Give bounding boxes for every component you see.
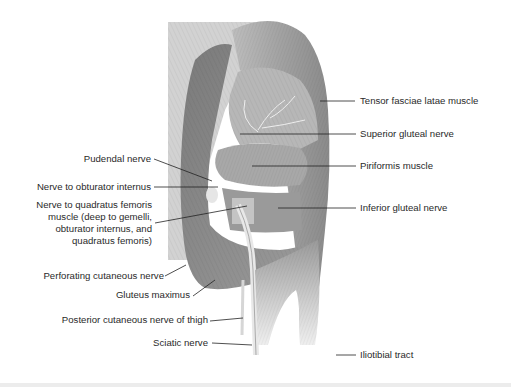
anatomy-figure: Pudendal nerve Nerve to obturator intern…: [0, 0, 511, 387]
label-perforating-cutaneous-nerve: Perforating cutaneous nerve: [43, 270, 164, 282]
label-iliotibial-tract: Iliotibial tract: [360, 349, 413, 361]
label-sciatic-nerve: Sciatic nerve: [153, 337, 208, 349]
gluteal-illustration: [0, 0, 511, 387]
label-tensor-fasciae-latae: Tensor fasciae latae muscle: [360, 95, 478, 107]
label-nerve-to-quadratus-femoris-line1: Nerve to quadratus femoris: [36, 199, 152, 211]
label-inferior-gluteal-nerve: Inferior gluteal nerve: [360, 202, 447, 214]
label-piriformis-muscle: Piriformis muscle: [360, 160, 433, 172]
label-nerve-to-quadratus-femoris-line2: muscle (deep to gemelli,: [48, 211, 152, 223]
label-nerve-to-quadratus-femoris-line4: quadratus femoris): [72, 235, 152, 247]
label-nerve-to-quadratus-femoris-line3: obturator internus, and: [55, 223, 152, 235]
bottom-border: [0, 383, 511, 387]
label-pudendal-nerve: Pudendal nerve: [84, 153, 151, 165]
label-gluteus-maximus: Gluteus maximus: [116, 289, 190, 301]
label-nerve-to-obturator-internus: Nerve to obturator internus: [37, 181, 151, 193]
label-posterior-cutaneous-nerve-of-thigh: Posterior cutaneous nerve of thigh: [62, 314, 208, 326]
label-superior-gluteal-nerve: Superior gluteal nerve: [360, 128, 454, 140]
